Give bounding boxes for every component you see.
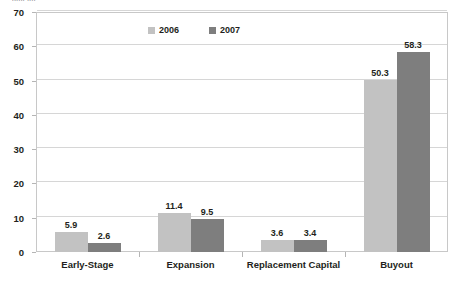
y-tick-label-0: 0 [19,247,24,258]
y-tick-mark-70 [32,12,36,13]
bar-expansion-2006 [158,213,191,252]
y-tick-mark-60 [32,46,36,47]
y-tick-label-70: 70 [13,7,24,18]
x-separator-1 [242,252,243,257]
bar-value-label-buyout-2007: 58.3 [393,40,433,50]
bars-layer: 5.92.611.49.53.63.450.358.3 [36,12,448,252]
bar-value-label-replacement-capital-2007: 3.4 [290,228,330,238]
bar-replacement-capital-2007 [294,240,327,252]
y-tick-label-30: 30 [13,144,24,155]
x-separator-0 [139,252,140,257]
gridline-70 [37,10,447,11]
bar-early-stage-2007 [88,243,121,252]
bar-buyout-2006 [364,80,397,252]
x-separator-2 [345,252,346,257]
bar-group-3: 50.358.3 [364,12,430,252]
bar-group-1: 11.49.5 [158,12,224,252]
x-category-label-3: Buyout [380,259,413,270]
bar-expansion-2007 [191,219,224,252]
y-tick-mark-40 [32,115,36,116]
x-category-label-1: Expansion [166,259,214,270]
bar-group-0: 5.92.6 [55,12,121,252]
bar-value-label-buyout-2006: 50.3 [360,68,400,78]
x-category-label-2: Replacement Capital [247,259,340,270]
y-axis-labels: 010203040506070 [0,12,32,252]
bar-chart: ...... .... 010203040506070 2006 2007 5.… [0,0,457,284]
bar-group-2: 3.63.4 [261,12,327,252]
y-tick-mark-10 [32,218,36,219]
bar-buyout-2007 [397,52,430,252]
y-tick-label-20: 20 [13,178,24,189]
y-tick-mark-0 [32,252,36,253]
y-tick-label-40: 40 [13,109,24,120]
y-tick-mark-20 [32,183,36,184]
y-tick-mark-50 [32,81,36,82]
bar-early-stage-2006 [55,232,88,252]
y-tick-label-50: 50 [13,75,24,86]
chart-title-fragment: ...... .... [12,0,36,2]
bar-value-label-early-stage-2006: 5.9 [51,220,91,230]
y-tick-label-60: 60 [13,41,24,52]
bar-value-label-early-stage-2007: 2.6 [84,231,124,241]
bar-replacement-capital-2006 [261,240,294,252]
y-tick-mark-30 [32,149,36,150]
x-category-label-0: Early-Stage [61,259,113,270]
y-tick-label-10: 10 [13,212,24,223]
bar-value-label-expansion-2007: 9.5 [187,207,227,217]
